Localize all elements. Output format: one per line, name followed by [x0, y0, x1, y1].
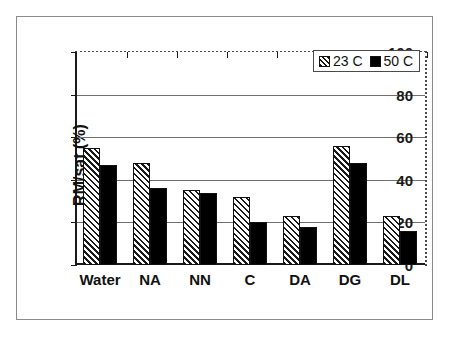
bar — [400, 231, 417, 265]
figure: RM/sat (%) 020406080100 WaterNANNCDADGDL… — [0, 0, 451, 343]
bar — [83, 148, 100, 265]
bar — [233, 197, 250, 265]
x-axis-labels: WaterNANNCDADGDL — [75, 272, 425, 296]
bar — [150, 188, 167, 265]
bar-group — [333, 52, 367, 265]
bar — [100, 165, 117, 265]
bars-layer — [75, 52, 425, 265]
bar-group — [383, 52, 417, 265]
bar — [133, 163, 150, 265]
legend-label-23c: 23 C — [333, 54, 363, 68]
legend-item-50c: 50 C — [370, 54, 414, 68]
chart-legend: 23 C 50 C — [313, 50, 420, 72]
bar — [350, 163, 367, 265]
legend-swatch-50c-icon — [370, 56, 381, 67]
legend-label-50c: 50 C — [384, 54, 414, 68]
bar — [283, 216, 300, 265]
bar — [383, 216, 400, 265]
bar-group — [283, 52, 317, 265]
y-tick-mark — [71, 265, 77, 266]
bar-group — [233, 52, 267, 265]
bar — [183, 190, 200, 265]
bar — [333, 146, 350, 265]
bar — [250, 222, 267, 265]
legend-swatch-23c-icon — [319, 56, 330, 67]
legend-item-23c: 23 C — [319, 54, 363, 68]
x-tick-label: DL — [365, 272, 435, 287]
bar — [300, 227, 317, 265]
bar-group — [133, 52, 167, 265]
bar — [200, 193, 217, 265]
x-tick-mark — [427, 52, 428, 58]
bar-group — [183, 52, 217, 265]
bar-group — [83, 52, 117, 265]
